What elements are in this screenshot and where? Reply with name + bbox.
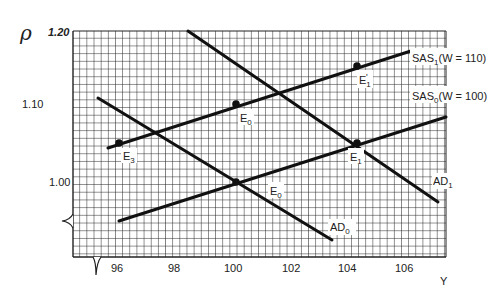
label-e1-prime: E1 ' — [357, 70, 373, 89]
label-e1: E1 — [348, 148, 364, 166]
y-axis-symbol: ρ — [19, 21, 32, 45]
x-tick-98: 98 — [168, 262, 180, 274]
y-tick-1-00: 1.00 — [49, 176, 70, 188]
point-e1 — [353, 139, 361, 147]
y-tick-1-10: 1.10 — [22, 98, 43, 110]
svg-text:': ' — [366, 72, 368, 82]
grid — [73, 31, 446, 257]
label-sas1: SAS1(W = 110) — [410, 48, 500, 67]
y-tick-1-20: 1.20 — [48, 26, 70, 38]
point-e1-prime — [353, 62, 361, 70]
x-tick-104: 104 — [338, 262, 356, 274]
x-tick-100: 100 — [224, 262, 242, 274]
label-ad0: AD0 — [328, 219, 356, 236]
label-e0: E0 — [268, 182, 284, 200]
x-tick-96: 96 — [111, 262, 123, 274]
point-e3 — [115, 139, 123, 147]
label-ad1: AD1 — [432, 173, 453, 190]
label-e0-prime: E0 — [238, 109, 254, 127]
point-e0-prime — [232, 100, 240, 108]
x-tick-106: 106 — [395, 262, 413, 274]
x-axis-symbol: Y — [440, 275, 448, 287]
x-tick-102: 102 — [282, 262, 300, 274]
point-e0 — [232, 178, 240, 186]
label-e3: E3 — [121, 148, 137, 165]
label-sas0: SAS0(W = 100) — [410, 86, 500, 105]
chart: ρ 1.20 1.10 1.00 96 98 100 102 104 106 Y… — [0, 0, 500, 297]
